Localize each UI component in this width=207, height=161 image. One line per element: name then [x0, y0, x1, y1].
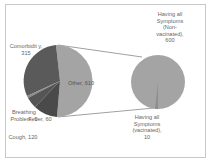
label-nonvaccinated: Having all Symptoms (Non- vacinated), 60…	[147, 11, 193, 44]
label-other: Other, 610	[62, 80, 100, 87]
label-comorbidity: Comorbidit y, 315	[8, 43, 44, 56]
secondary-pie	[131, 55, 185, 109]
label-vaccinated: Having all Symptoms (vacinated), 10	[122, 114, 172, 140]
label-fever: Fever, 60	[25, 116, 55, 123]
label-cough: Cough, 120	[6, 134, 40, 141]
